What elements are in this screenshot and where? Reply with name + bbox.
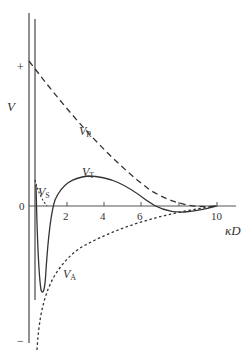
vt-label: VT xyxy=(82,166,94,182)
tick-label-6: 6 xyxy=(137,210,143,222)
vs-label: VS xyxy=(38,186,50,202)
tick-label-4: 4 xyxy=(100,210,106,222)
minus-marker: − xyxy=(17,335,24,347)
dlvo-potential-diagram xyxy=(0,0,252,361)
y-axis-label: V xyxy=(7,101,15,113)
zero-marker: 0 xyxy=(19,200,25,212)
tick-label-2: 2 xyxy=(63,210,69,222)
tick-label-10: 10 xyxy=(211,210,222,222)
va-label: VA xyxy=(63,268,76,284)
vr-label: VR xyxy=(79,125,92,141)
plus-marker: + xyxy=(17,61,24,73)
x-axis-label: κD xyxy=(225,225,241,237)
